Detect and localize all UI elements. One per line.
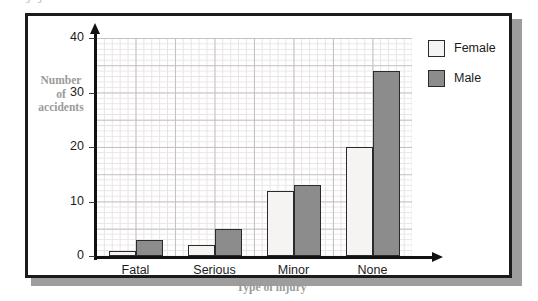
y-tick-0: 0 bbox=[89, 256, 95, 257]
x-category-label-fatal: Fatal bbox=[91, 263, 181, 277]
bar-none-male bbox=[373, 71, 400, 256]
legend-swatch-male-icon bbox=[428, 70, 445, 87]
bar-minor-female bbox=[267, 191, 294, 256]
y-tick-label-10: 10 bbox=[70, 194, 84, 208]
legend-item-female: Female bbox=[428, 33, 514, 63]
bar-serious-female bbox=[188, 245, 215, 256]
y-tick-label-30: 30 bbox=[70, 85, 84, 99]
top-text-remnant: J J bbox=[26, 0, 45, 5]
bar-fatal-male bbox=[136, 240, 163, 256]
y-tick-label-40: 40 bbox=[70, 30, 84, 44]
y-axis-title-line-3: accidents bbox=[32, 101, 90, 115]
legend-swatch-female-icon bbox=[428, 40, 445, 57]
legend-label-female: Female bbox=[454, 41, 496, 55]
bar-minor-male bbox=[294, 185, 321, 256]
legend-label-male: Male bbox=[454, 71, 481, 85]
y-tick-20: 20 bbox=[89, 147, 95, 148]
y-tick-label-0: 0 bbox=[77, 248, 84, 262]
plot-wrap: Number of accidents 010203040 FatalSerio… bbox=[28, 16, 515, 281]
y-tick-10: 10 bbox=[89, 202, 95, 203]
bar-none-female bbox=[346, 147, 373, 256]
chart-page: J J Number of accidents 010203040 FatalS… bbox=[0, 0, 538, 301]
figure-frame: Number of accidents 010203040 FatalSerio… bbox=[25, 13, 512, 278]
y-axis-line bbox=[94, 32, 97, 260]
legend: Female Male bbox=[428, 33, 514, 93]
x-axis-line bbox=[94, 256, 434, 259]
x-category-label-minor: Minor bbox=[249, 263, 339, 277]
y-tick-label-20: 20 bbox=[70, 139, 84, 153]
x-category-label-serious: Serious bbox=[170, 263, 260, 277]
y-axis-arrow-icon bbox=[90, 23, 100, 34]
y-tick-40: 40 bbox=[89, 38, 95, 39]
plot-area bbox=[96, 38, 412, 256]
x-axis-title: Type of injury bbox=[28, 281, 515, 293]
x-axis-arrow-icon bbox=[432, 252, 443, 262]
x-category-label-none: None bbox=[328, 263, 418, 277]
legend-item-male: Male bbox=[428, 63, 514, 93]
y-tick-30: 30 bbox=[89, 93, 95, 94]
bar-serious-male bbox=[215, 229, 242, 256]
